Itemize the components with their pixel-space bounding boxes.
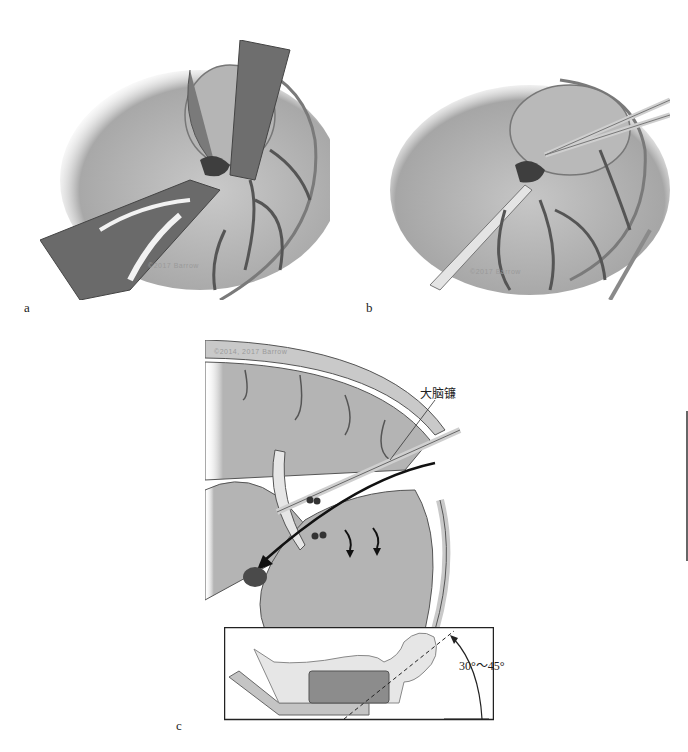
panel-a-label: a [24,300,30,316]
panel-c-credit: ©2014, 2017 Barrow [214,348,287,355]
panel-a-credit: ©2017 Barrow [148,262,199,269]
panel-b-credit: ©2017 Barrow [470,268,521,275]
panel-b-label: b [366,300,373,316]
positioning-inset [224,627,494,721]
panel-c-label: c [176,718,182,734]
panel-a-illustration [40,40,330,300]
falx-cerebri-label: 大脑镰 [420,384,456,401]
inset-angle-label: 30°～45° [459,656,505,674]
panel-b-illustration [390,70,670,300]
